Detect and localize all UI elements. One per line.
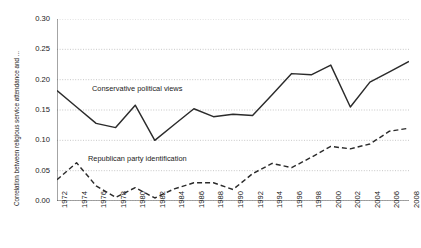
- data-series: [57, 61, 409, 198]
- series-annotation-conservative: Conservative political views: [92, 85, 182, 92]
- y-tick-label: 0.05: [24, 167, 50, 175]
- y-axis-tick-labels: 0.000.050.100.150.200.250.30: [22, 0, 50, 210]
- plot-area: [57, 19, 409, 201]
- y-tick-label: 0.10: [24, 136, 50, 144]
- gridlines: [57, 19, 409, 201]
- y-tick-label: 0.00: [24, 197, 50, 205]
- series-line-conservative: [57, 61, 409, 140]
- figure-caption: [8, 241, 413, 248]
- y-axis-title: Correlation between religious service at…: [14, 0, 20, 206]
- y-tick-label: 0.15: [24, 106, 50, 114]
- y-tick-label: 0.25: [24, 45, 50, 53]
- x-tick-label: 2008: [413, 191, 421, 208]
- series-annotation-republican: Republican party identification: [88, 155, 187, 162]
- series-line-republican: [57, 128, 409, 198]
- figure-container: Correlation between religious service at…: [0, 0, 421, 248]
- y-tick-label: 0.30: [24, 15, 50, 23]
- y-axis-title-container: Correlation between religious service at…: [0, 0, 20, 210]
- y-tick-label: 0.20: [24, 76, 50, 84]
- chart-svg: [57, 19, 409, 201]
